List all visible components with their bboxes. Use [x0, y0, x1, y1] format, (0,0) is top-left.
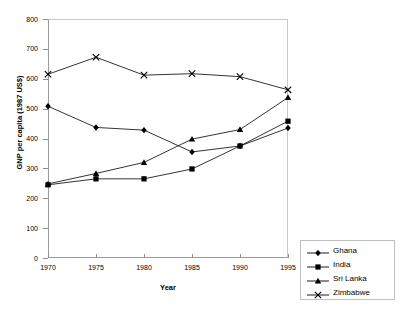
series-ghana: [45, 103, 291, 155]
legend-item-sri-lanka[interactable]: Sri Lanka: [305, 272, 394, 286]
legend-label: Sri Lanka: [331, 274, 367, 284]
legend-label: Ghana: [331, 246, 357, 256]
triangle-marker-icon: [305, 273, 331, 285]
chart-legend: GhanaIndiaSri LankaZimbabwe: [300, 240, 395, 300]
legend-label: Zimbabwe: [331, 288, 370, 298]
legend-item-india[interactable]: India: [305, 258, 394, 272]
cross-marker-icon: [305, 287, 331, 299]
chart-figure: 0100200300400500600700800 19701975198019…: [0, 0, 401, 324]
diamond-marker-icon: [305, 245, 331, 257]
series-zimbabwe: [45, 54, 291, 93]
series-india: [45, 119, 290, 188]
legend-label: India: [331, 260, 350, 270]
legend-item-ghana[interactable]: Ghana: [305, 244, 394, 258]
legend-item-zimbabwe[interactable]: Zimbabwe: [305, 286, 394, 300]
square-marker-icon: [305, 259, 331, 271]
